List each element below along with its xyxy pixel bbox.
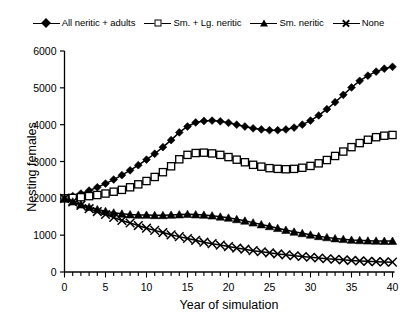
series-cross — [60, 194, 397, 266]
x-tick-label: 20 — [223, 281, 235, 293]
series-diamond — [61, 63, 397, 202]
series-square — [61, 131, 396, 202]
x-tick-label: 25 — [264, 281, 276, 293]
chart-figure: All neritic + adultsSm. + Lg. neriticSm.… — [0, 0, 417, 325]
x-axis-title: Year of simulation — [64, 298, 394, 312]
y-tick-label: 0 — [51, 266, 57, 278]
x-tick-label: 30 — [305, 281, 317, 293]
x-axis-ticks — [65, 272, 393, 278]
y-axis-ticks — [60, 51, 65, 272]
x-tick-label: 0 — [62, 281, 68, 293]
x-tick-label: 5 — [103, 281, 109, 293]
y-tick-label: 6000 — [33, 45, 56, 57]
x-tick-label: 40 — [387, 281, 399, 293]
x-tick-label: 15 — [182, 281, 194, 293]
y-axis-title: Nesting females — [25, 77, 39, 257]
x-tick-label: 10 — [141, 281, 153, 293]
plot-area — [0, 0, 417, 325]
x-tick-label: 35 — [346, 281, 358, 293]
